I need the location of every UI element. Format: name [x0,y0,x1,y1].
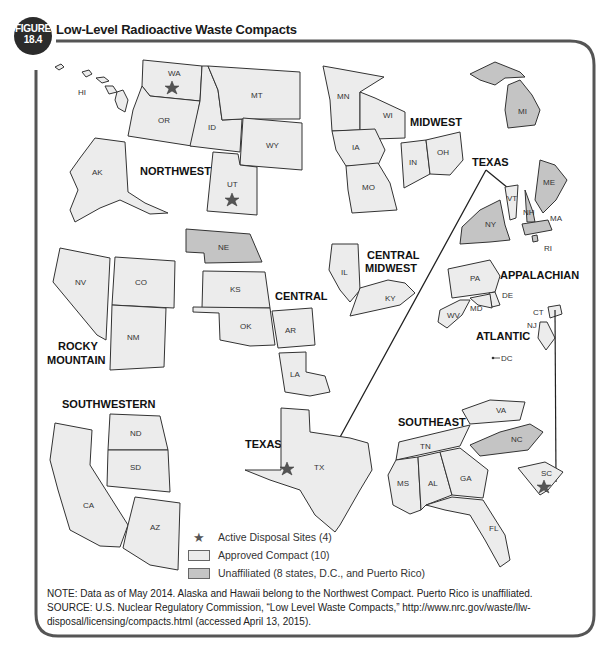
svg-text:AZ: AZ [150,523,160,532]
svg-text:MS: MS [397,479,409,488]
region-northwest: WA OR ID MT WY UT AK NORTHWEST [70,60,302,222]
svg-text:CT: CT [533,308,544,317]
region-label-central-midwest-2: MIDWEST [365,262,417,274]
region-label-midwest: MIDWEST [410,116,462,128]
star-icon: ★ [188,530,210,545]
svg-text:PA: PA [470,274,481,283]
svg-text:ID: ID [208,123,216,132]
state-az [123,497,180,570]
svg-text:NV: NV [75,278,87,287]
svg-text:CA: CA [83,501,95,510]
state-nv [53,248,110,340]
region-label-texas: TEXAS [245,438,282,450]
unaffiliated-swatch-icon [188,568,210,579]
state-la [279,352,330,396]
svg-text:VA: VA [496,406,507,415]
svg-text:DC: DC [501,354,513,363]
region-label-rocky: ROCKY [58,340,98,352]
region-central: NE KS OK AR LA CENTRAL [186,229,330,396]
svg-text:LA: LA [290,370,300,379]
legend-approved: Approved Compact (10) [188,546,425,564]
svg-text:MI: MI [518,107,527,116]
state-tx [245,408,372,532]
region-label-southwestern: SOUTHWESTERN [62,398,156,410]
svg-text:DE: DE [502,291,513,300]
dc-dot [492,357,495,360]
svg-text:NY: NY [485,220,497,229]
svg-text:KS: KS [230,285,241,294]
svg-text:ME: ME [543,178,555,187]
svg-text:MT: MT [251,91,263,100]
atlantic-connector-line [555,310,556,482]
region-label-northwest: NORTHWEST [140,165,211,177]
svg-text:KY: KY [385,294,396,303]
svg-text:AL: AL [428,479,438,488]
svg-text:GA: GA [460,474,472,483]
state-ok [193,307,275,346]
svg-text:WV: WV [447,311,461,320]
svg-text:AR: AR [285,326,296,335]
region-label-southeast: SOUTHEAST [398,416,466,428]
svg-text:MO: MO [362,183,375,192]
region-rocky-mountain: NV CO NM ROCKY MOUNTAIN [47,248,175,370]
svg-text:MD: MD [470,304,483,313]
source-text: SOURCE: U.S. Nuclear Regulatory Commissi… [47,601,592,629]
region-central-midwest: IL KY CENTRAL MIDWEST [329,244,420,316]
svg-text:VT: VT [507,194,517,203]
svg-text:CO: CO [135,278,147,287]
region-label-central-midwest-1: CENTRAL [367,249,420,261]
legend-unaffiliated: Unaffiliated (8 states, D.C., and Puerto… [188,564,425,582]
region-label-appalachian: APPALACHIAN [500,269,579,281]
svg-text:MA: MA [550,214,563,223]
svg-text:SC: SC [541,469,552,478]
state-va [462,400,525,424]
legend-active-sites: ★ Active Disposal Sites (4) [188,528,425,546]
svg-text:NH: NH [523,208,535,217]
region-label-atlantic: ATLANTIC [476,330,530,342]
figure-notes: NOTE: Data as of May 2014. Alaska and Ha… [47,587,592,629]
svg-text:WY: WY [266,141,280,150]
state-nc [470,424,543,456]
region-label-mountain: MOUNTAIN [47,354,106,366]
svg-text:AK: AK [92,168,103,177]
region-texas: TEXAS TX [245,408,372,532]
note-text: NOTE: Data as of May 2014. Alaska and Ha… [47,587,592,601]
svg-text:TX: TX [314,463,325,472]
state-ma [522,220,552,235]
approved-swatch-icon [188,550,210,561]
svg-text:NM: NM [127,333,140,342]
state-hi: HI [55,64,128,112]
svg-text:OK: OK [240,322,252,331]
label-hi: HI [78,88,86,97]
svg-text:IL: IL [341,268,348,277]
svg-text:MN: MN [337,92,350,101]
region-atlantic: CT NJ ATLANTIC DC [476,305,562,482]
svg-text:NE: NE [218,243,229,252]
svg-text:NJ: NJ [527,321,537,330]
svg-text:SD: SD [130,463,141,472]
region-southwestern: SOUTHWESTERN ND SD CA AZ [50,398,180,570]
map-legend: ★ Active Disposal Sites (4) Approved Com… [188,528,425,582]
svg-text:WA: WA [168,69,181,78]
region-label-texas-top: TEXAS [472,156,509,168]
svg-text:ND: ND [130,429,142,438]
svg-text:IA: IA [352,143,360,152]
svg-text:FL: FL [489,524,499,533]
svg-text:OR: OR [158,116,170,125]
svg-text:TN: TN [420,442,431,451]
state-mi-group: MI [470,62,540,128]
state-ak [70,138,168,222]
svg-text:NC: NC [511,435,523,444]
state-ri [532,235,538,242]
state-nj [538,322,555,350]
state-mi [470,62,540,128]
region-appalachian: PA DE MD WV APPALACHIAN [438,260,579,328]
region-midwest: MN WI IA MO IN OH MIDWEST [323,66,463,213]
svg-text:WI: WI [383,111,393,120]
svg-text:IN: IN [409,158,417,167]
svg-text:OH: OH [437,148,449,157]
region-label-central: CENTRAL [275,290,328,302]
state-nh [525,190,535,222]
svg-text:UT: UT [227,180,238,189]
svg-text:RI: RI [544,244,552,253]
